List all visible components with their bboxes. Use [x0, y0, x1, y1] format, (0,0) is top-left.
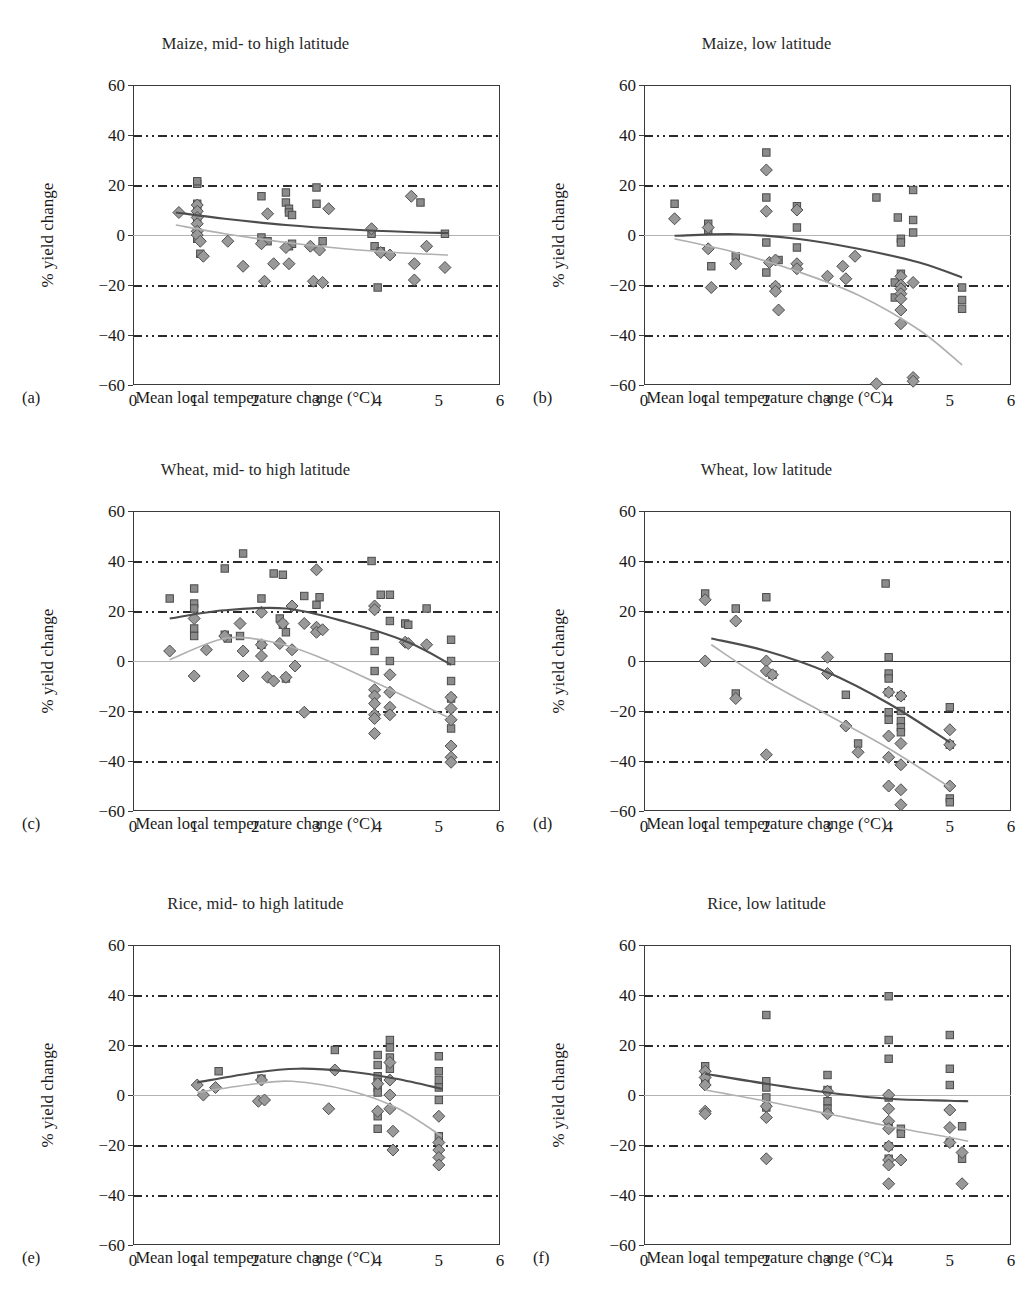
- data-point-square: [374, 284, 381, 291]
- data-point-diamond: [234, 618, 246, 630]
- data-point-square: [190, 625, 197, 632]
- data-point-diamond: [237, 645, 249, 657]
- data-point-diamond: [837, 260, 849, 272]
- trend-line-light: [675, 239, 962, 365]
- y-tick-mark--60: [128, 811, 133, 812]
- y-tick-label-20: 20: [108, 1037, 125, 1054]
- data-point-diamond: [907, 277, 919, 289]
- y-tick-mark--60: [128, 1245, 133, 1246]
- data-point-square: [435, 1076, 442, 1083]
- trend-line-dark: [176, 213, 448, 234]
- x-axis-caption: Mean local temperature change (°C): [511, 814, 1022, 834]
- data-point-diamond: [895, 799, 907, 811]
- data-point-square: [386, 657, 393, 664]
- y-tick-label-0: 0: [628, 653, 637, 670]
- panel-title: Maize, mid- to high latitude: [0, 34, 511, 54]
- data-point-square: [946, 799, 953, 806]
- y-tick-label-0: 0: [117, 653, 126, 670]
- data-point-diamond: [883, 751, 895, 763]
- data-point-square: [946, 704, 953, 711]
- trend-line-light: [711, 645, 950, 788]
- panel-d: Wheat, low latitude6040200−20−40−6001234…: [511, 426, 1022, 860]
- plot-area: 6040200−20−40−600123456: [644, 945, 1011, 1245]
- data-point-square: [282, 189, 289, 196]
- data-point-square: [221, 565, 228, 572]
- data-point-square: [763, 269, 770, 276]
- data-point-square: [763, 239, 770, 246]
- data-point-diamond: [298, 706, 310, 718]
- y-tick-label-0: 0: [628, 227, 637, 244]
- y-tick-label-60: 60: [619, 77, 636, 94]
- data-point-square: [435, 1068, 442, 1075]
- y-tick-label-0: 0: [628, 1087, 637, 1104]
- data-point-diamond: [895, 759, 907, 771]
- y-tick-label-60: 60: [108, 937, 125, 954]
- figure-crop-yield-vs-temperature: Maize, mid- to high latitude6040200−20−4…: [0, 0, 1023, 1301]
- data-point-square: [423, 605, 430, 612]
- panel-letter: (d): [533, 814, 552, 834]
- data-point-square: [368, 557, 375, 564]
- data-point-diamond: [384, 1089, 396, 1101]
- y-tick-label-60: 60: [619, 503, 636, 520]
- data-point-square: [270, 570, 277, 577]
- data-point-square: [371, 632, 378, 639]
- data-point-square: [288, 211, 295, 218]
- data-point-diamond: [210, 1082, 222, 1094]
- data-point-square: [377, 591, 384, 598]
- data-point-square: [885, 654, 892, 661]
- data-point-diamond: [895, 784, 907, 796]
- panel-letter: (f): [533, 1248, 549, 1268]
- y-tick-label-0: 0: [117, 227, 126, 244]
- data-marks-layer: [644, 85, 1011, 385]
- data-point-diamond: [883, 1103, 895, 1115]
- data-point-square: [824, 1098, 831, 1105]
- data-point-diamond: [237, 670, 249, 682]
- data-point-diamond: [405, 190, 417, 202]
- plot-area: 6040200−20−40−600123456: [133, 85, 500, 385]
- data-point-diamond: [760, 1153, 772, 1165]
- y-tick-mark--60: [639, 811, 644, 812]
- data-point-diamond: [944, 1104, 956, 1116]
- data-point-diamond: [730, 615, 742, 627]
- y-tick-label--40: −40: [609, 1187, 636, 1204]
- data-point-diamond: [895, 304, 907, 316]
- data-point-square: [909, 229, 916, 236]
- data-point-diamond: [895, 690, 907, 702]
- data-point-diamond: [283, 258, 295, 270]
- x-axis-caption: Mean local temperature change (°C): [0, 1248, 511, 1268]
- data-point-square: [885, 675, 892, 682]
- data-point-square: [190, 632, 197, 639]
- data-point-diamond: [669, 213, 681, 225]
- data-point-diamond: [323, 1103, 335, 1115]
- data-point-square: [824, 1071, 831, 1078]
- data-point-diamond: [852, 746, 864, 758]
- data-point-square: [946, 1065, 953, 1072]
- data-point-square: [313, 184, 320, 191]
- data-point-square: [386, 1044, 393, 1051]
- y-tick-mark--60: [639, 1245, 644, 1246]
- data-point-square: [239, 550, 246, 557]
- data-point-diamond: [760, 1112, 772, 1124]
- data-point-diamond: [944, 1122, 956, 1134]
- panel-b: Maize, low latitude6040200−20−40−6001234…: [511, 0, 1022, 434]
- data-point-diamond: [445, 740, 457, 752]
- y-tick-label--20: −20: [609, 1137, 636, 1154]
- data-point-square: [885, 993, 892, 1000]
- data-point-square: [793, 224, 800, 231]
- data-point-square: [194, 178, 201, 185]
- plot-area: 6040200−20−40−600123456: [644, 85, 1011, 385]
- data-point-square: [958, 284, 965, 291]
- data-point-diamond: [760, 164, 772, 176]
- data-point-square: [374, 1125, 381, 1132]
- y-tick-label--40: −40: [609, 327, 636, 344]
- y-axis-label: % yield change: [549, 591, 569, 731]
- data-point-diamond: [408, 258, 420, 270]
- data-point-diamond: [298, 618, 310, 630]
- trend-line-dark: [197, 1069, 442, 1089]
- data-point-diamond: [840, 273, 852, 285]
- y-tick-label-20: 20: [619, 177, 636, 194]
- data-point-square: [447, 636, 454, 643]
- data-point-square: [279, 571, 286, 578]
- data-point-diamond: [760, 749, 772, 761]
- data-point-square: [386, 1036, 393, 1043]
